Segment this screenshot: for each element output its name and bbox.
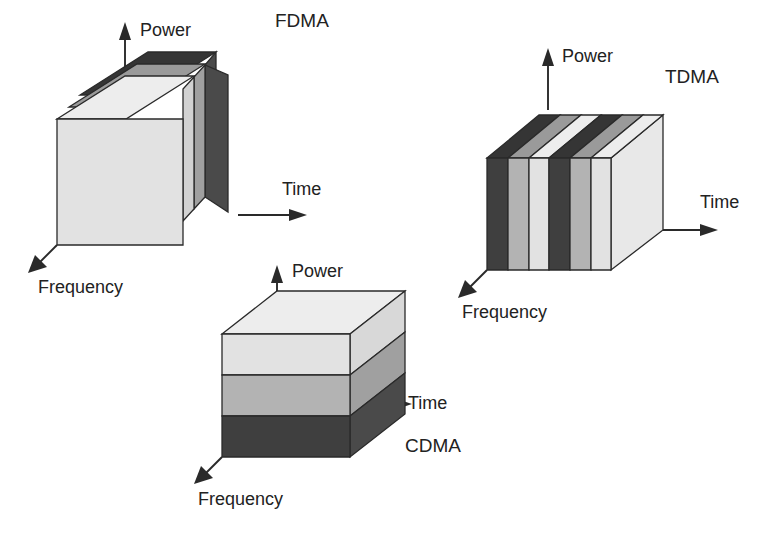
tdma-slice-1-front <box>508 158 529 270</box>
cdma-layer-medium-front <box>222 375 350 416</box>
tdma-slice-3-front <box>549 158 570 270</box>
cdma-layer-dark-front <box>222 416 350 457</box>
fdma-group: Power Time Frequency <box>28 10 329 297</box>
diagram-canvas: Power Time Frequency <box>0 0 782 533</box>
fdma-power-label: Power <box>140 20 191 40</box>
fdma-front-face <box>57 119 183 245</box>
cdma-group: Power Time Frequency <box>194 261 461 509</box>
tdma-slice-2-front <box>529 158 549 270</box>
tdma-time-axis <box>663 224 718 236</box>
cdma-time-label: Time <box>408 393 447 413</box>
tdma-frequency-axis <box>458 270 487 298</box>
tdma-power-label: Power <box>562 46 613 66</box>
tdma-time-label: Time <box>700 192 739 212</box>
tdma-title: TDMA <box>665 66 719 87</box>
tdma-frequency-label: Frequency <box>462 302 547 322</box>
fdma-slab-light-side <box>183 77 194 221</box>
cdma-title: CDMA <box>405 435 461 456</box>
tdma-group: Power Time Frequency <box>458 46 739 322</box>
fdma-time-axis <box>238 209 307 221</box>
fdma-slab-light-top <box>57 76 194 119</box>
fdma-time-label: Time <box>282 179 321 199</box>
fdma-frequency-axis <box>28 245 57 273</box>
tdma-slice-0-front <box>487 158 508 270</box>
tdma-slice-4-front <box>570 158 591 270</box>
cdma-layer-light-front <box>222 334 350 375</box>
multiple-access-diagram: Power Time Frequency <box>0 0 782 533</box>
fdma-slab-medium-side <box>194 65 205 209</box>
cdma-frequency-label: Frequency <box>198 489 283 509</box>
fdma-slab-dark-side-inner <box>205 65 228 212</box>
cdma-power-label: Power <box>292 261 343 281</box>
tdma-power-axis <box>542 48 554 110</box>
fdma-title: FDMA <box>275 10 329 31</box>
fdma-frequency-label: Frequency <box>38 277 123 297</box>
cdma-frequency-axis <box>194 457 222 484</box>
tdma-slice-5-front <box>591 158 611 270</box>
